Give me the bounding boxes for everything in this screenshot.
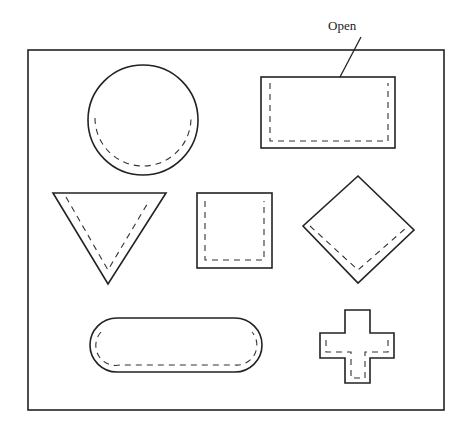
rectangle-shape: [261, 77, 395, 148]
cross-shape: [320, 310, 394, 383]
shapes-diagram: [0, 0, 467, 430]
square-shape: [197, 193, 272, 268]
dashed-stitch-lines: [66, 83, 406, 378]
diamond-shape: [303, 176, 414, 283]
rounded-rectangle-shape: [90, 318, 262, 372]
circle-shape: [88, 65, 198, 175]
triangle-shape: [53, 193, 166, 284]
callout-leader-line: [340, 37, 361, 77]
